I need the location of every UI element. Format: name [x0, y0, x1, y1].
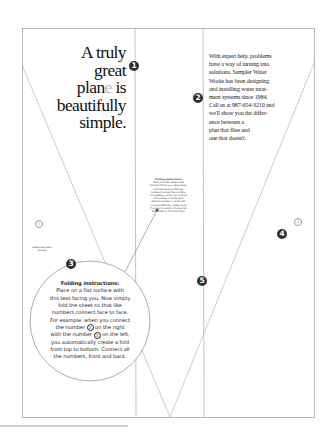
- headline-line: A truly: [30, 44, 126, 62]
- headline-grey-letter: e: [105, 77, 112, 97]
- body-line: plan that flies and: [209, 126, 295, 134]
- instructions-line: with the number 1 on the left,: [38, 331, 142, 338]
- headline-line: simple.: [30, 114, 126, 132]
- step-badge-2: 2: [193, 93, 203, 103]
- folding-instructions-small: Folding instructions: Place on a flat su…: [138, 178, 199, 213]
- instructions-text: the number: [56, 324, 87, 330]
- instructions-text: with the number: [151, 200, 171, 203]
- instructions-line: fold the sheet so that like: [38, 302, 142, 309]
- circled-number: 1: [87, 324, 94, 331]
- folding-instructions-magnified: Folding instructions: Place on a flat su…: [38, 280, 142, 361]
- body-line: With expert help, problems: [209, 52, 295, 60]
- fold-mark-right: 1: [294, 218, 302, 226]
- instructions-line: the numbers, front and back.: [138, 210, 199, 213]
- instructions-line: For example, when you connect: [38, 317, 142, 324]
- body-line: solutions. Sampler Water: [209, 68, 295, 76]
- step-badge-5: 5: [197, 276, 207, 286]
- instructions-line: from top to bottom. Connect all: [38, 346, 142, 353]
- instructions-text: on the left,: [173, 200, 186, 203]
- headline-line: plane is: [30, 79, 126, 97]
- instructions-text: on the left,: [101, 331, 130, 337]
- instructions-text: with the number: [51, 331, 94, 337]
- instructions-line: this text facing you. Now simply: [38, 295, 142, 302]
- headline-text: plan: [77, 77, 105, 97]
- instructions-line: numbers connect face to face.: [38, 309, 142, 316]
- fold-mark-left: 1: [35, 220, 43, 228]
- body-line: we'll show you the differ-: [209, 109, 295, 117]
- headline: A truly great plane is beautifully simpl…: [30, 44, 126, 132]
- instructions-text: on the right: [94, 324, 125, 330]
- circled-number: 1: [94, 332, 101, 339]
- instructions-line: the numbers, front and back.: [38, 353, 142, 360]
- headline-text: is: [112, 77, 126, 97]
- body-line: Works has been designing: [209, 77, 295, 85]
- body-line: and installing water treat-: [209, 85, 295, 93]
- instructions-line: Place on a flat surface with: [38, 287, 142, 294]
- body-copy: With expert help, problems have a way of…: [209, 52, 295, 142]
- body-line: ment systems since 1984.: [209, 93, 295, 101]
- step-badge-4: 4: [277, 229, 287, 239]
- instructions-line: the number 1 on the right: [38, 324, 142, 331]
- body-line: one that doesn't.: [209, 134, 295, 142]
- instructions-line: you automatically create a fold: [38, 339, 142, 346]
- body-line: ence between a: [209, 118, 295, 126]
- body-line: Call us at 987-654-3210 and: [209, 101, 295, 109]
- step-badge-3: 3: [66, 259, 76, 269]
- body-line: have a way of turning into: [209, 60, 295, 68]
- staple-note: Staple here when finished: [30, 247, 54, 253]
- instructions-title: Folding instructions:: [38, 280, 142, 287]
- step-badge-1: 1: [129, 61, 139, 71]
